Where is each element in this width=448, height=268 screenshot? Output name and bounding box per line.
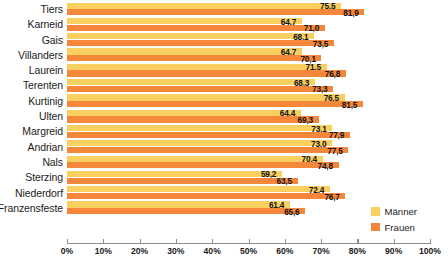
x-axis (67, 243, 430, 244)
bar-group: 64,469,3 (67, 109, 448, 124)
bar-männer (67, 94, 345, 100)
bar-frauen (67, 86, 333, 92)
axis-tick-label: 80% (349, 246, 366, 256)
chart-row: Andrian73,077,5 (0, 140, 448, 155)
bar-frauen (67, 132, 350, 138)
bar-group: 72,476,7 (67, 186, 448, 201)
bar-group: 73,177,9 (67, 124, 448, 139)
axis-tick (394, 239, 395, 244)
bar-group: 59,263,5 (67, 170, 448, 185)
chart-row: Laurein71,576,8 (0, 63, 448, 78)
bar-frauen (67, 101, 363, 107)
category-label: Niederdorf (0, 187, 63, 199)
category-label: Kurtinig (0, 95, 63, 107)
category-label: Tiers (0, 3, 63, 15)
axis-tick-label: 70% (312, 246, 329, 256)
bar-group: 70,474,8 (67, 155, 448, 170)
axis-tick (176, 239, 177, 244)
chart-legend: MännerFrauen (371, 206, 417, 237)
axis-tick (103, 239, 104, 244)
bar-männer (67, 110, 301, 116)
bar-frauen (67, 147, 348, 153)
category-label: Gais (0, 34, 63, 46)
bar-frauen (67, 162, 339, 168)
bar-männer (67, 79, 315, 85)
axis-tick-label: 0% (61, 246, 73, 256)
axis-tick (357, 239, 358, 244)
chart-row: Gais68,173,5 (0, 33, 448, 48)
bar-group: 64,771,0 (67, 17, 448, 32)
axis-tick-label: 30% (167, 246, 184, 256)
bar-männer (67, 64, 327, 70)
bar-frauen (67, 25, 325, 31)
category-label: Villanders (0, 49, 63, 61)
axis-tick (430, 239, 431, 244)
bar-group: 75,581,9 (67, 2, 448, 17)
category-label: Karneid (0, 18, 63, 30)
bar-männer (67, 186, 330, 192)
bar-chart: Tiers75,581,9Karneid64,771,0Gais68,173,5… (0, 0, 448, 268)
value-label: 65,6 (284, 207, 299, 217)
bar-männer (67, 3, 341, 9)
bar-group: 73,077,5 (67, 140, 448, 155)
chart-row: Tiers75,581,9 (0, 2, 448, 17)
bar-group: 71,576,8 (67, 63, 448, 78)
axis-tick-label: 90% (385, 246, 402, 256)
bar-frauen (67, 208, 305, 214)
bar-frauen (67, 55, 321, 61)
category-label: Andrian (0, 141, 63, 153)
bar-männer (67, 140, 332, 146)
axis-tick (321, 239, 322, 244)
bar-männer (67, 201, 290, 207)
chart-row: Niederdorf72,476,7 (0, 186, 448, 201)
axis-tick (285, 239, 286, 244)
chart-row: Villanders64,770,1 (0, 48, 448, 63)
legend-swatch-icon (371, 223, 380, 232)
category-label: Laurein (0, 64, 63, 76)
bar-männer (67, 171, 282, 177)
bar-männer (67, 48, 302, 54)
legend-swatch-icon (371, 207, 380, 216)
axis-tick-label: 20% (131, 246, 148, 256)
legend-item[interactable]: Männer (371, 206, 417, 217)
axis-tick-label: 10% (95, 246, 112, 256)
chart-row: Sterzing59,263,5 (0, 170, 448, 185)
axis-tick-label: 100% (419, 246, 441, 256)
category-label: Ulten (0, 110, 63, 122)
axis-tick-label: 60% (276, 246, 293, 256)
bar-männer (67, 33, 314, 39)
bar-frauen (67, 70, 346, 76)
axis-tick-label: 50% (240, 246, 257, 256)
chart-row: Terenten68,373,3 (0, 78, 448, 93)
bar-frauen (67, 9, 364, 15)
legend-label: Frauen (385, 222, 415, 233)
chart-row: Karneid64,771,0 (0, 17, 448, 32)
bar-frauen (67, 193, 345, 199)
category-label: Sterzing (0, 171, 63, 183)
chart-row: Kurtinig76,581,5 (0, 94, 448, 109)
bar-männer (67, 156, 323, 162)
bar-männer (67, 18, 302, 24)
bar-männer (67, 125, 332, 131)
bar-frauen (67, 40, 334, 46)
axis-tick (249, 239, 250, 244)
chart-row: Ulten64,469,3 (0, 109, 448, 124)
axis-tick (140, 239, 141, 244)
bar-group: 76,581,5 (67, 94, 448, 109)
bar-group: 64,770,1 (67, 48, 448, 63)
bar-group: 68,373,3 (67, 78, 448, 93)
category-label: Terenten (0, 79, 63, 91)
axis-tick (212, 239, 213, 244)
chart-row: Nals70,474,8 (0, 155, 448, 170)
bar-frauen (67, 178, 298, 184)
chart-row: Margreid73,177,9 (0, 124, 448, 139)
category-label: Margreid (0, 125, 63, 137)
category-label: Franzensfeste (0, 202, 63, 214)
axis-tick (67, 239, 68, 244)
axis-tick-label: 40% (204, 246, 221, 256)
chart-rows: Tiers75,581,9Karneid64,771,0Gais68,173,5… (0, 2, 448, 216)
legend-item[interactable]: Frauen (371, 222, 417, 233)
bar-group: 68,173,5 (67, 33, 448, 48)
bar-frauen (67, 116, 319, 122)
legend-label: Männer (385, 206, 418, 217)
